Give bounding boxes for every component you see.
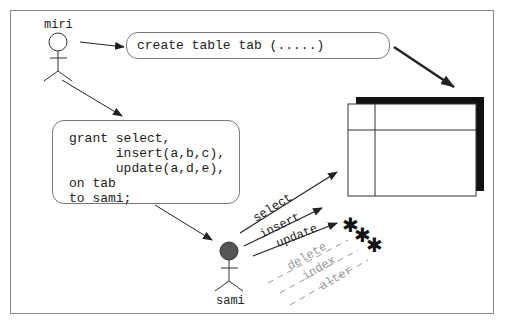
actor-sami-figure — [215, 242, 243, 291]
grant-statement-box: grant select, insert(a,b,c), update(a,d,… — [52, 120, 240, 204]
grant-line: update(a,d,e), — [69, 161, 239, 176]
create-statement-text: create table tab (.....) — [137, 38, 324, 53]
arrow-miri-to-grant — [62, 80, 122, 116]
grant-line: grant select, — [69, 131, 239, 146]
arrow-create-to-table — [394, 47, 454, 87]
grant-line: on tab — [69, 176, 239, 191]
table-icon — [348, 97, 484, 196]
granted-privilege-labels: select insert update — [251, 191, 320, 251]
arrow-grant-to-sami — [155, 205, 212, 240]
arrow-miri-to-create — [80, 42, 124, 47]
actor-miri-figure — [44, 33, 72, 81]
denied-marker-icon: ✱ — [366, 233, 383, 257]
grant-line: insert(a,b,c), — [69, 146, 239, 161]
create-table-statement: create table tab (.....) — [126, 32, 390, 59]
grant-line: to sami; — [69, 191, 239, 206]
actor-sami-label: sami — [216, 294, 245, 308]
denied-privilege-labels: delete index alter — [285, 240, 355, 294]
actor-miri-label: miri — [44, 18, 73, 32]
denied-x-markers: ✱ ✱ ✱ — [342, 213, 383, 257]
